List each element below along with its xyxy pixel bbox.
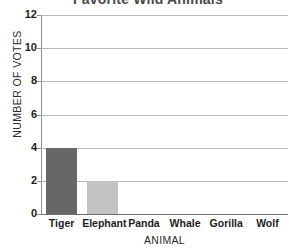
y-axis-tick-label: 2 <box>3 174 37 186</box>
x-axis-tick-label: Elephant <box>82 217 123 229</box>
y-axis-tick-label: 8 <box>3 74 37 86</box>
x-axis-tick-label: Whale <box>165 217 206 229</box>
y-axis-tick-label: 6 <box>3 108 37 120</box>
x-axis-tick-label: Panda <box>123 217 164 229</box>
gridline <box>41 148 288 149</box>
x-axis-tick-label: Wolf <box>247 217 288 229</box>
y-axis-tick-label: 10 <box>3 41 37 53</box>
bar-chart: Favorite Wild Animals NUMBER OF VOTES 12… <box>0 0 296 252</box>
x-axis-tick-label: Tiger <box>41 217 82 229</box>
bar <box>46 148 77 214</box>
y-axis-tick-label: 4 <box>3 141 37 153</box>
y-axis-tick-label: 0 <box>3 207 37 219</box>
gridline <box>41 48 288 49</box>
x-axis-tick-label: Gorilla <box>206 217 247 229</box>
gridline <box>41 15 288 16</box>
x-axis-title: ANIMAL <box>41 234 288 246</box>
gridline <box>41 115 288 116</box>
gridline <box>41 181 288 182</box>
plot-area <box>41 15 288 214</box>
x-axis-line <box>41 214 288 215</box>
y-axis-tick-label: 12 <box>3 8 37 20</box>
chart-title: Favorite Wild Animals <box>0 0 296 7</box>
gridline <box>41 81 288 82</box>
bar <box>87 181 118 214</box>
x-axis-tick-labels: TigerElephantPandaWhaleGorillaWolf <box>41 217 288 233</box>
